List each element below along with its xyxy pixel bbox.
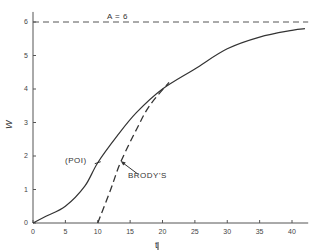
series-lines [33,22,308,223]
asymptote-label: A = 6 [107,13,128,21]
x-tick-label: 30 [223,228,231,235]
y-tick-label: 2 [24,152,28,159]
axis-ticks [33,22,292,223]
y-axis-label: W [5,120,14,129]
brody-label: BRODY'S [128,172,167,180]
y-tick-label: 4 [24,85,28,92]
x-axis-label: t [155,241,158,250]
x-tick-label: 10 [94,228,102,235]
y-tick-label: 5 [24,52,28,59]
x-tick-label: 25 [191,228,199,235]
axes [33,12,308,223]
y-tick-label: 0 [24,219,28,226]
poi-curve [33,29,305,223]
y-tick-label: 3 [24,119,28,126]
growth-curve-chart [0,0,333,251]
x-tick-label: 20 [159,228,167,235]
x-tick-label: 40 [288,228,296,235]
x-tick-label: 5 [63,228,67,235]
brody-curve [98,82,169,223]
y-tick-label: 6 [24,18,28,25]
poi-label: (POI) [65,157,87,165]
x-tick-label: 15 [126,228,134,235]
x-tick-label: 0 [31,228,35,235]
x-tick-label: 35 [256,228,264,235]
y-tick-label: 1 [24,186,28,193]
